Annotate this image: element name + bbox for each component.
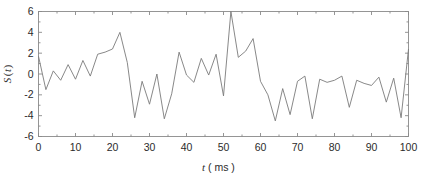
y-tick-label: 2 [28, 47, 34, 59]
y-tick-label: -4 [24, 109, 33, 121]
x-tick-label: 0 [36, 141, 42, 153]
x-axis-title-unit: ( ms ) [208, 161, 235, 173]
x-tick-label: 50 [218, 141, 230, 153]
y-tick-label: -2 [24, 88, 33, 100]
x-axis-title: t ( ms ) [202, 161, 235, 173]
x-tick-label: 60 [255, 141, 267, 153]
x-tick-label: 80 [329, 141, 341, 153]
x-tick-label: 90 [366, 141, 378, 153]
x-tick-label: 70 [292, 141, 304, 153]
y-tick-label: 4 [28, 26, 34, 38]
y-axis-title: S(t) [1, 64, 14, 83]
chart-figure: 0102030405060708090100 -6-4-20246 t ( ms… [0, 0, 426, 176]
x-axis-ticks [39, 12, 409, 137]
y-axis-title-paren-close: ) [1, 64, 14, 68]
y-tick-label: -6 [24, 130, 33, 142]
x-axis-tick-labels: 0102030405060708090100 [36, 141, 418, 153]
x-tick-label: 20 [107, 141, 119, 153]
y-tick-label: 6 [28, 5, 34, 17]
signal-line-chart: 0102030405060708090100 -6-4-20246 t ( ms… [0, 0, 426, 176]
x-tick-label: 100 [400, 141, 418, 153]
y-axis-title-symbol-s: S [1, 77, 13, 83]
y-axis-ticks [39, 12, 409, 137]
plot-frame [39, 12, 409, 137]
signal-data-line [39, 12, 409, 121]
y-axis-title-text: S(t) [1, 64, 14, 83]
y-axis-tick-labels: -6-4-20246 [24, 5, 34, 142]
x-axis-title-symbol: t [202, 161, 206, 173]
x-tick-label: 40 [181, 141, 193, 153]
x-tick-label: 10 [70, 141, 82, 153]
x-tick-label: 30 [144, 141, 156, 153]
y-tick-label: 0 [28, 68, 34, 80]
